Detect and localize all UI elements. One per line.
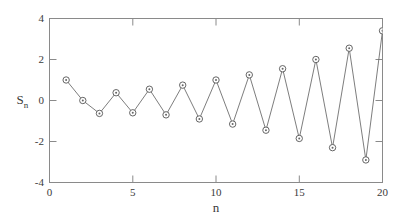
data-point-center bbox=[132, 112, 134, 114]
x-tick-label: 15 bbox=[294, 186, 306, 198]
data-point-center bbox=[348, 47, 350, 49]
y-tick-label: 0 bbox=[39, 94, 45, 106]
data-point-center bbox=[148, 88, 150, 90]
data-point-center bbox=[65, 79, 67, 81]
data-point-center bbox=[365, 159, 367, 161]
x-tick-label: 0 bbox=[47, 186, 53, 198]
data-point-center bbox=[232, 123, 234, 125]
y-tick-label: -2 bbox=[35, 135, 44, 147]
data-point-center bbox=[315, 59, 317, 61]
data-point-center bbox=[82, 100, 84, 102]
data-point-center bbox=[165, 114, 167, 116]
x-axis-label: n bbox=[213, 200, 220, 215]
y-axis-label-subscript: n bbox=[24, 100, 29, 110]
data-point-center bbox=[198, 118, 200, 120]
data-point-center bbox=[298, 137, 300, 139]
data-point-center bbox=[282, 68, 284, 70]
figure-background bbox=[0, 0, 402, 219]
data-point-center bbox=[248, 74, 250, 76]
x-tick-label: 20 bbox=[377, 186, 389, 198]
data-point-center bbox=[182, 84, 184, 86]
data-point-center bbox=[332, 147, 334, 149]
data-point-center bbox=[115, 92, 117, 94]
y-axis-label: S bbox=[16, 92, 23, 107]
data-point-center bbox=[98, 112, 100, 114]
y-tick-label: 4 bbox=[39, 12, 45, 24]
y-tick-label: -4 bbox=[35, 176, 45, 188]
y-tick-label: 2 bbox=[39, 53, 45, 65]
data-point-center bbox=[265, 129, 267, 131]
data-point-center bbox=[215, 79, 217, 81]
x-tick-label: 5 bbox=[130, 186, 136, 198]
chart-figure: 4 2 0 -2 -4 0 5 10 15 20 S n n bbox=[0, 0, 402, 219]
x-tick-label: 10 bbox=[211, 186, 223, 198]
